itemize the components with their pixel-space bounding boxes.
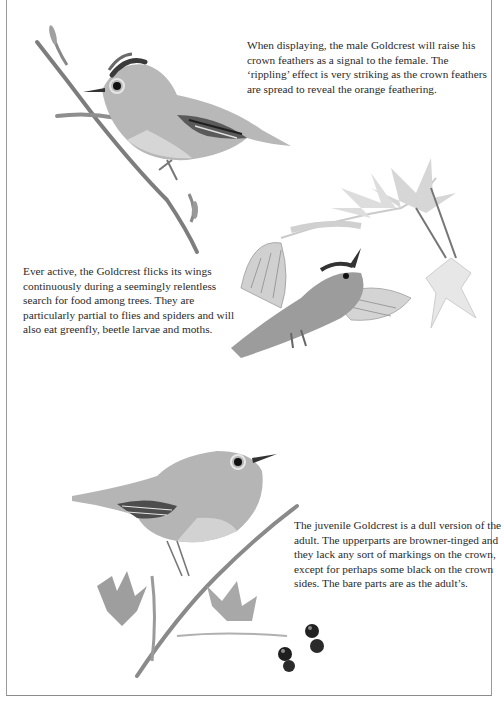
goldcrest-fluttering-illustration [221,148,491,368]
caption-line: they lack any sort of markings on the cr… [294,548,496,560]
caption-juvenile: The juvenile Goldcrest is a dull version… [294,518,504,591]
page-frame: When displaying, the male Goldcrest will… [6,0,492,696]
bird-juvenile [72,451,277,576]
caption-line: adult. The upperparts are browner-tinged… [294,534,498,546]
caption-line: Ever active, the Goldcrest flicks its wi… [23,265,212,277]
caption-line: are spread to reveal the orange featheri… [247,83,437,95]
caption-line: also eat greenfly, beetle larvae and mot… [23,323,212,335]
caption-line: continuously during a seemingly relentle… [23,280,216,292]
caption-line: particularly partial to flies and spider… [23,309,234,321]
caption-line: sides. The bare parts are as the adult’s… [294,577,468,589]
caption-line: ‘rippling’ effect is very striking as th… [247,68,487,80]
caption-line: The juvenile Goldcrest is a dull version… [294,519,501,531]
caption-line: except for perhaps some black on the cro… [294,563,493,575]
caption-line: crown feathers as a signal to the female… [247,54,449,66]
berries-icon [278,624,324,672]
caption-line: When displaying, the male Goldcrest will… [247,39,475,51]
caption-line: search for food among trees. They are [23,294,194,306]
caption-displaying: When displaying, the male Goldcrest will… [247,38,497,96]
bird-fluttering [231,243,411,358]
caption-feeding: Ever active, the Goldcrest flicks its wi… [23,264,243,337]
